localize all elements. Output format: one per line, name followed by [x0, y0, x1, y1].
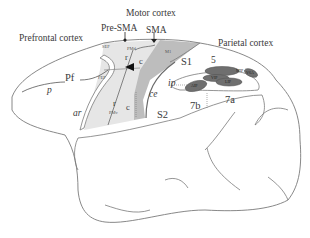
mip-label: MIP [236, 69, 243, 73]
v6a-label: V6A [246, 71, 254, 75]
area-7a-label: 7a [225, 95, 235, 106]
central-sulcus-label: ce [149, 90, 157, 100]
area-7b-label: 7b [190, 101, 201, 112]
motor-cortex-label: Motor cortex [126, 9, 176, 19]
pmd-rostral-label: r [125, 53, 128, 62]
area-5-label: 5 [211, 56, 216, 66]
pmv-caudal-label: c [126, 103, 130, 112]
principal-sulcus-label: p [47, 86, 52, 96]
s1-label: S1 [181, 57, 192, 68]
prefrontal-cortex-label: Prefrontal cortex [19, 34, 83, 44]
sef-label: SEF [102, 45, 110, 50]
sma-label: SMA [146, 26, 167, 36]
pmd-label: PMd [127, 47, 136, 52]
pmd-caudal-label: c [139, 57, 143, 66]
intraparietal-sulcus-label: ip [168, 79, 175, 89]
premotor-region [84, 40, 160, 130]
pmv-rostral-label: r [113, 99, 116, 108]
aip-label: AIP [191, 84, 197, 88]
lip-label: LIP [225, 80, 231, 84]
s2-label: S2 [157, 110, 168, 121]
vip-label: VIP [211, 76, 217, 80]
m1-label: M1 [165, 50, 171, 55]
fef-label: FEF [98, 76, 106, 81]
pf-label: Pf [65, 73, 74, 84]
pre-sma-marker [123, 38, 126, 41]
parietal-cortex-label: Parietal cortex [218, 39, 273, 49]
pmv-label: PMv [109, 111, 118, 116]
arcuate-sulcus-label: ar [73, 109, 81, 119]
principal-sulcus [22, 82, 65, 92]
pre-sma-label: Pre-SMA [101, 24, 137, 34]
